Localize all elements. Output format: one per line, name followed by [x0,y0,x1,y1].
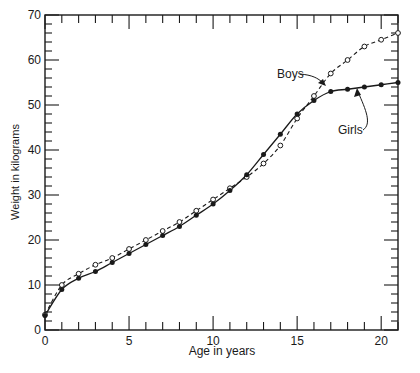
boys-open-circle-marker [110,256,115,261]
y-tick-label: 70 [28,8,42,22]
girls-filled-circle-marker [143,242,148,247]
boys-open-circle-marker [143,238,148,243]
x-tick-label: 0 [42,334,49,348]
boys-open-circle-marker [194,208,199,213]
boys-open-circle-marker [295,116,300,121]
boys-annotation-label: Boys [277,67,304,81]
x-tick-label: 5 [126,334,133,348]
y-tick-label: 10 [28,278,42,292]
boys-open-circle-marker [93,262,98,267]
boys-open-circle-marker [396,31,401,36]
girls-series-line [45,83,398,316]
girls-filled-circle-marker [110,260,115,265]
girls-filled-circle-marker [211,202,216,207]
x-tick-label: 20 [375,334,389,348]
boys-open-circle-marker [379,37,384,42]
boys-series-markers [43,31,401,318]
axis-tick-labels: 05101520010203040506070 [28,8,389,348]
y-tick-label: 60 [28,53,42,67]
boys-open-circle-marker [278,143,283,148]
girls-filled-circle-marker [194,213,199,218]
girls-filled-circle-marker [93,269,98,274]
girls-filled-circle-marker [127,251,132,256]
girls-filled-circle-marker [76,276,81,281]
boys-open-circle-marker [261,161,266,166]
boys-open-circle-marker [345,58,350,63]
girls-filled-circle-marker [59,287,64,292]
girls-filled-circle-marker [396,80,401,85]
girls-filled-circle-marker [295,112,300,117]
boys-open-circle-marker [177,220,182,225]
boys-open-circle-marker [362,44,367,49]
girls-filled-circle-marker [311,98,316,103]
girls-filled-circle-marker [345,87,350,92]
boys-open-circle-marker [211,197,216,202]
x-axis-label: Age in years [189,344,256,358]
boys-open-circle-marker [160,229,165,234]
y-tick-label: 40 [28,143,42,157]
boys-open-circle-marker [312,94,317,99]
boys-open-circle-marker [127,247,132,252]
boys-curve [45,33,398,315]
y-tick-label: 20 [28,233,42,247]
girls-filled-circle-marker [328,89,333,94]
girls-filled-circle-marker [278,132,283,137]
x-tick-label: 15 [290,334,304,348]
boys-series-line [45,33,398,315]
girls-filled-circle-marker [362,85,367,90]
boys-open-circle-marker [76,271,81,276]
boys-open-circle-marker [328,71,333,76]
girls-annotation-label: Girls [338,123,363,137]
girls-filled-circle-marker [244,172,249,177]
weight-by-age-chart: 05101520010203040506070 Age in years Wei… [0,0,420,373]
y-tick-label: 30 [28,188,42,202]
girls-filled-circle-marker [43,313,48,318]
boys-open-circle-marker [59,283,64,288]
girls-filled-circle-marker [160,233,165,238]
girls-filled-circle-marker [227,188,232,193]
y-tick-label: 0 [34,323,41,337]
girls-series-markers [43,80,401,318]
girls-filled-circle-marker [379,82,384,87]
girls-filled-circle-marker [177,224,182,229]
girls-filled-circle-marker [261,152,266,157]
y-axis-label: Weight in kilograms [9,124,21,220]
girls-curve [45,83,398,316]
y-tick-label: 50 [28,98,42,112]
